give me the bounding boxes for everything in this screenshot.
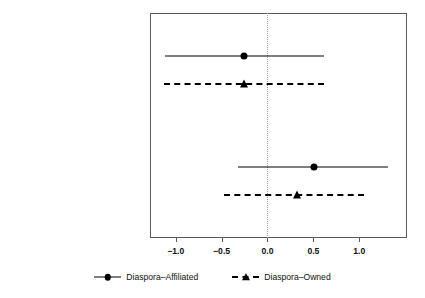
x-axis-tick — [267, 238, 268, 242]
x-axis-tick-label: −1.0 — [167, 246, 184, 256]
point-estimate-circle-marker — [240, 53, 247, 60]
legend-key — [232, 272, 259, 282]
x-axis-tick — [222, 238, 223, 242]
x-axis-tick — [313, 238, 314, 242]
legend-triangle-marker-icon — [242, 273, 250, 280]
x-axis-tick-label: 1.0 — [353, 246, 365, 256]
coefficient-plot-figure: Receives Credit from Supplier Offers Cre… — [0, 0, 425, 298]
x-axis-tick — [176, 238, 177, 242]
x-axis-tick-label: 0.0 — [262, 246, 274, 256]
x-axis-tick — [359, 238, 360, 242]
legend-label: Diaspora–Owned — [264, 272, 330, 282]
legend-entry[interactable]: Diaspora–Affiliated — [94, 272, 198, 282]
legend-label: Diaspora–Affiliated — [126, 272, 198, 282]
x-axis-tick-label: 0.5 — [307, 246, 319, 256]
legend: Diaspora–AffiliatedDiaspora–Owned — [0, 269, 425, 285]
legend-entry[interactable]: Diaspora–Owned — [232, 272, 330, 282]
point-estimate-circle-marker — [311, 163, 318, 170]
point-estimate-triangle-marker — [293, 190, 301, 198]
legend-circle-marker-icon — [105, 274, 112, 281]
plot-area — [150, 13, 407, 238]
legend-key — [94, 272, 121, 282]
x-axis-tick-label: −0.5 — [213, 246, 230, 256]
point-estimate-triangle-marker — [240, 80, 248, 88]
zero-reference-line — [267, 13, 268, 238]
